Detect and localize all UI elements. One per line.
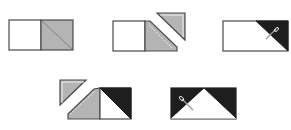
step-5 [171, 88, 236, 119]
step-3 [223, 21, 288, 51]
white-rectangle-half [113, 21, 145, 51]
quilt-steps-diagram [0, 0, 291, 130]
step-1 [9, 20, 73, 50]
diagram-canvas: Step 1: Place square on rectangle, draw … [0, 0, 291, 130]
step-4 [60, 80, 131, 119]
step-2 [113, 13, 185, 51]
white-rectangle-half [9, 20, 41, 50]
